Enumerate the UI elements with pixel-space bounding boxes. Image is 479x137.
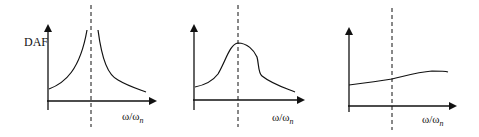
daf-curve-left — [49, 30, 87, 89]
panel-2: ω/ωn — [193, 5, 303, 127]
daf-curve-right — [98, 30, 146, 92]
x-axis-label: ω/ωn — [122, 110, 144, 125]
y-axis-label: DAF — [24, 35, 48, 49]
panel-3: ω/ωn — [348, 8, 455, 130]
panel-1: DAF ω/ωn — [24, 5, 155, 127]
daf-curve — [349, 71, 448, 85]
daf-diagram: DAF ω/ωn ω/ωn ω/ωn — [0, 0, 479, 137]
daf-curve — [195, 43, 295, 92]
x-axis-label: ω/ωn — [422, 113, 444, 128]
x-axis-label: ω/ωn — [272, 111, 294, 126]
